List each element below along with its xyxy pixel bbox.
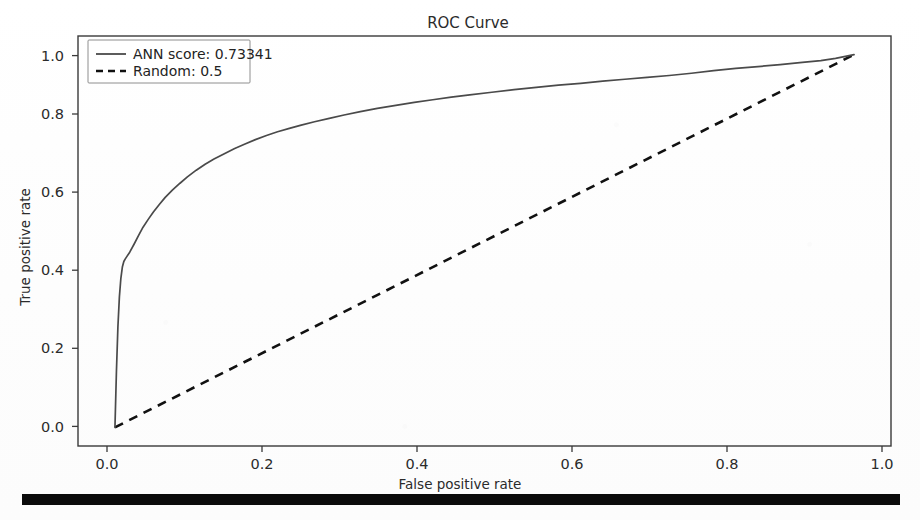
y-tick-label-0: 0.0	[41, 419, 64, 435]
scan-black-bar-artifact	[22, 494, 900, 505]
data-series-group	[115, 55, 854, 428]
x-tick-label-1: 0.2	[250, 456, 273, 472]
x-tick-label-3: 0.6	[560, 456, 583, 472]
roc-chart-canvas: 0.0 0.2 0.4 0.6 0.8 1.0 False positive r…	[0, 0, 920, 520]
y-tick-label-5: 1.0	[41, 48, 64, 64]
legend-label-random: Random: 0.5	[133, 63, 222, 79]
y-tick-marks	[72, 56, 78, 427]
plot-frame	[78, 36, 891, 446]
x-tick-marks	[107, 446, 882, 452]
x-tick-label-4: 0.8	[715, 456, 738, 472]
x-axis-title: False positive rate	[399, 476, 522, 492]
axes-spines	[78, 36, 891, 446]
y-tick-label-3: 0.6	[41, 184, 64, 200]
legend[interactable]: ANN score: 0.73341 Random: 0.5	[88, 40, 273, 83]
y-tick-label-4: 0.8	[41, 106, 64, 122]
x-tick-label-2: 0.4	[405, 456, 428, 472]
ann-roc-curve-line	[115, 55, 854, 428]
x-tick-label-5: 1.0	[870, 456, 893, 472]
y-tick-label-2: 0.4	[41, 262, 64, 278]
y-axis: 0.0 0.2 0.4 0.6 0.8 1.0 True positive ra…	[17, 48, 78, 435]
y-axis-title: True positive rate	[17, 188, 33, 307]
random-baseline-line	[115, 55, 854, 428]
chart-title: ROC Curve	[427, 14, 509, 32]
x-tick-label-0: 0.0	[95, 456, 118, 472]
x-axis: 0.0 0.2 0.4 0.6 0.8 1.0 False positive r…	[95, 446, 893, 492]
y-tick-label-1: 0.2	[41, 340, 64, 356]
legend-label-ann-score: ANN score: 0.73341	[133, 46, 273, 62]
roc-curve-figure: 0.0 0.2 0.4 0.6 0.8 1.0 False positive r…	[0, 0, 920, 520]
